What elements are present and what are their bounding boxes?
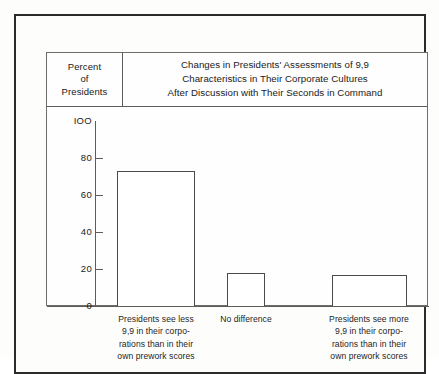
category-0-line-3: rations than in their: [99, 338, 213, 350]
y-axis-tick-60: 60: [47, 189, 103, 201]
y-axis-line: [95, 121, 96, 306]
y-axis-tick-mark: [96, 269, 103, 270]
bar-category-2: [332, 275, 407, 306]
category-2-line-3: rations than in their: [309, 338, 429, 350]
y-axis-tick-label: 40: [81, 226, 92, 238]
y-axis-tick-label: 80: [81, 152, 92, 164]
x-axis-category-label-1: No difference: [197, 313, 295, 325]
chart-frame: Percent of Presidents Changes in Preside…: [46, 52, 428, 306]
y-axis-tick-label: 0: [86, 300, 92, 312]
category-2-line-2: 9,9 in their corpo-: [309, 325, 429, 337]
y-axis-tick-20: 20: [47, 263, 103, 275]
chart-title-line-2: Characteristics in Their Corporate Cultu…: [182, 72, 368, 86]
y-axis-tick-0: 0: [47, 300, 103, 312]
y-axis-title-line-2: of: [80, 73, 88, 85]
y-axis-tick-mark: [96, 158, 103, 159]
y-axis-tick-40: 40: [47, 226, 103, 238]
chart-title-line-1: Changes in Presidents' Assessments of 9,…: [181, 58, 369, 72]
category-1-line-1: No difference: [197, 313, 295, 325]
y-axis-title-line-1: Percent: [68, 61, 101, 73]
x-axis-category-label-2: Presidents see more 9,9 in their corpo- …: [309, 313, 429, 363]
y-axis-tick-label: 60: [81, 189, 92, 201]
x-axis-baseline: [47, 306, 429, 307]
chart-header-band: Percent of Presidents Changes in Preside…: [47, 53, 427, 107]
y-axis-tick-label: IOO: [74, 115, 92, 127]
x-axis-category-label-0: Presidents see less 9,9 in their corpo- …: [99, 313, 213, 363]
y-axis-tick-mark: [96, 195, 103, 196]
y-axis-title-cell: Percent of Presidents: [47, 53, 123, 106]
chart-title-line-3: After Discussion with Their Seconds in C…: [168, 86, 383, 100]
plot-area: IOO 80 60 40 20: [47, 107, 427, 305]
bar-category-1: [227, 273, 265, 306]
y-axis-tick-80: 80: [47, 152, 103, 164]
category-2-line-4: own prework scores: [309, 350, 429, 362]
chart-title: Changes in Presidents' Assessments of 9,…: [123, 53, 427, 106]
figure-outer-border: Percent of Presidents Changes in Preside…: [14, 14, 426, 374]
category-0-line-1: Presidents see less: [99, 313, 213, 325]
y-axis-title-line-3: Presidents: [62, 86, 108, 98]
category-0-line-2: 9,9 in their corpo-: [99, 325, 213, 337]
y-axis-tick-100: IOO: [47, 115, 103, 127]
category-0-line-4: own prework scores: [99, 350, 213, 362]
bar-category-0: [117, 171, 195, 306]
category-2-line-1: Presidents see more: [309, 313, 429, 325]
y-axis-tick-mark: [96, 232, 103, 233]
y-axis-tick-label: 20: [81, 263, 92, 275]
